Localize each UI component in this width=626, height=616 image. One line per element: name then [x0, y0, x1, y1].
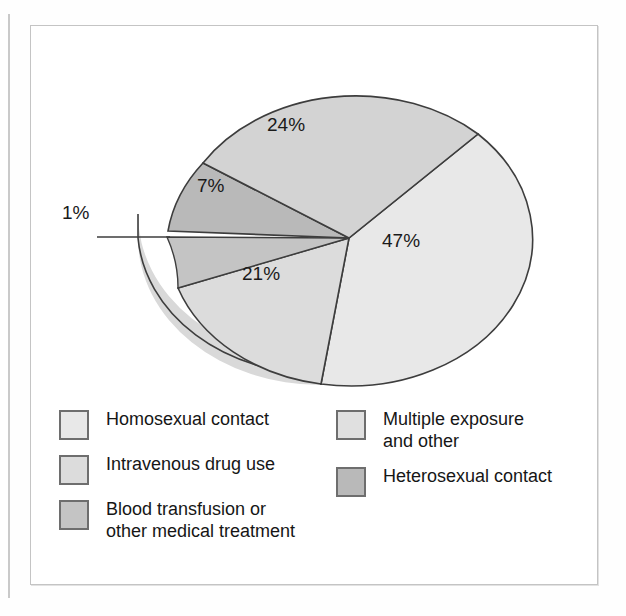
legend-label-intravenous-drug-use: Intravenous drug use [106, 453, 275, 475]
legend-label-line1: Intravenous drug use [106, 454, 275, 474]
legend-column-right: Multiple exposure and other Heterosexual… [336, 408, 591, 510]
legend-item-homosexual-contact: Homosexual contact [59, 408, 349, 440]
swatch-multiple-exposure [336, 410, 366, 440]
pie-label-multiple-exposure: 24% [267, 114, 305, 136]
legend-label-line1: Homosexual contact [106, 409, 269, 429]
pie-label-heterosexual-contact: 7% [197, 175, 224, 197]
legend-label-heterosexual-contact: Heterosexual contact [383, 465, 552, 487]
swatch-homosexual-contact [59, 410, 89, 440]
swatch-heterosexual-contact [336, 467, 366, 497]
legend-label-line1: Heterosexual contact [383, 466, 552, 486]
legend-column-left: Homosexual contact Intravenous drug use … [59, 408, 349, 555]
pie-label-intravenous-drug-use: 21% [242, 263, 280, 285]
legend-item-multiple-exposure: Multiple exposure and other [336, 408, 591, 452]
page-canvas: 47% 24% 21% 7% 1% Homosexual contact Int… [0, 0, 626, 616]
swatch-intravenous-drug-use [59, 455, 89, 485]
legend-label-multiple-exposure: Multiple exposure and other [383, 408, 524, 452]
legend-label-line1: Multiple exposure [383, 409, 524, 429]
pie-chart-area: 47% 24% 21% 7% 1% [31, 26, 599, 396]
legend-item-blood-transfusion: Blood transfusion or other medical treat… [59, 498, 349, 542]
legend-item-heterosexual-contact: Heterosexual contact [336, 465, 591, 497]
legend-label-line1: Blood transfusion or [106, 499, 266, 519]
legend-label-blood-transfusion: Blood transfusion or other medical treat… [106, 498, 295, 542]
chart-legend: Homosexual contact Intravenous drug use … [31, 408, 599, 586]
pie-chart-graphic [31, 26, 599, 396]
swatch-blood-transfusion [59, 500, 89, 530]
legend-label-line2: and other [383, 430, 524, 452]
pie-label-blood-transfusion: 1% [62, 202, 89, 224]
legend-item-intravenous-drug-use: Intravenous drug use [59, 453, 349, 485]
figure-frame: 47% 24% 21% 7% 1% Homosexual contact Int… [30, 25, 598, 585]
legend-label-homosexual-contact: Homosexual contact [106, 408, 269, 430]
pie-slices [167, 96, 533, 386]
pie-label-homosexual-contact: 47% [382, 230, 420, 252]
legend-label-line2: other medical treatment [106, 520, 295, 542]
page-edge-rule [8, 14, 10, 598]
